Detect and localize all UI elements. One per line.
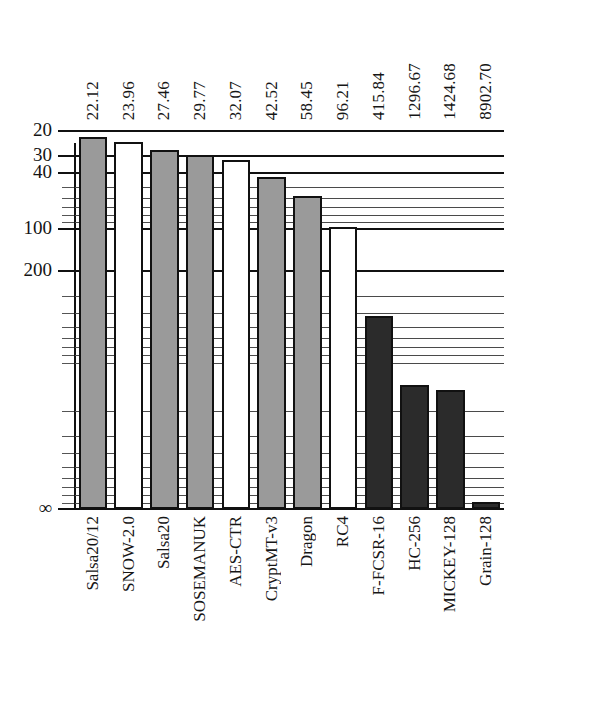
value-label-cryptmt-v3: 42.52 — [263, 81, 280, 120]
value-label-aes-ctr: 32.07 — [227, 81, 244, 120]
category-label-hc-256: HC-256 — [406, 516, 423, 571]
bar-aes-ctr — [222, 160, 251, 509]
bar-snow-2-0 — [114, 142, 143, 509]
bar-grain-128 — [472, 502, 501, 509]
category-label-salsa20-12: Salsa20/12 — [84, 516, 101, 591]
value-label-group: 22.1223.9627.4629.7732.0742.5258.4596.21… — [0, 0, 604, 120]
y-axis-label-inf: ∞ — [0, 498, 52, 517]
bar-sosemanuk — [186, 155, 215, 509]
value-label-grain-128: 8902.70 — [477, 63, 494, 120]
category-label-rc4: RC4 — [334, 516, 351, 547]
value-label-mickey-128: 1424.68 — [441, 63, 458, 120]
value-label-f-fcsr-16: 415.84 — [370, 72, 387, 120]
bar-rc4 — [329, 227, 358, 509]
value-label-snow-2-0: 23.96 — [120, 81, 137, 120]
y-axis-label-20: 20 — [0, 120, 52, 139]
gridline-major — [75, 130, 504, 132]
category-label-mickey-128: MICKEY-128 — [441, 516, 458, 612]
value-label-salsa20: 27.46 — [155, 81, 172, 120]
value-label-salsa20-12: 22.12 — [84, 81, 101, 120]
bar-dragon — [293, 196, 322, 509]
category-label-salsa20: Salsa20 — [155, 516, 172, 569]
y-axis-label-40: 40 — [0, 162, 52, 181]
bar-f-fcsr-16 — [365, 316, 394, 509]
bar-chart-figure: 22.1223.9627.4629.7732.0742.5258.4596.21… — [0, 0, 604, 701]
category-label-sosemanuk: SOSEMANUK — [191, 516, 208, 622]
category-label-cryptmt-v3: CryptMT-v3 — [263, 516, 280, 601]
y-axis-label-200: 200 — [0, 260, 52, 279]
bar-mickey-128 — [436, 390, 465, 509]
bar-cryptmt-v3 — [257, 177, 286, 509]
category-label-group: Salsa20/12SNOW-2.0Salsa20SOSEMANUKAES-CT… — [0, 516, 604, 701]
value-label-hc-256: 1296.67 — [406, 63, 423, 120]
y-axis-label-100: 100 — [0, 218, 52, 237]
value-label-sosemanuk: 29.77 — [191, 81, 208, 120]
category-label-grain-128: Grain-128 — [477, 516, 494, 586]
category-label-dragon: Dragon — [298, 516, 315, 567]
category-label-snow-2-0: SNOW-2.0 — [120, 516, 137, 592]
value-label-dragon: 58.45 — [298, 81, 315, 120]
value-label-rc4: 96.21 — [334, 81, 351, 120]
plot-area — [75, 131, 504, 509]
category-label-aes-ctr: AES-CTR — [227, 516, 244, 587]
category-label-f-fcsr-16: F-FCSR-16 — [370, 516, 387, 595]
bar-salsa20-12 — [79, 137, 108, 509]
bar-salsa20 — [150, 150, 179, 509]
bar-hc-256 — [400, 385, 429, 509]
